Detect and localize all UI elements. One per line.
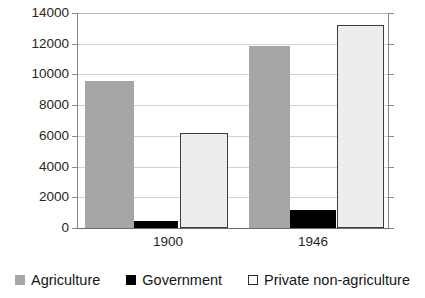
y-tick-right-14000 [389,13,394,14]
black-square-swatch-icon [126,275,136,285]
y-tick-right-0 [389,228,394,229]
gray-square-swatch-icon [15,275,25,285]
y-tick-left-14000 [72,13,77,14]
chart-legend: Agriculture Government Private non-agric… [0,268,425,292]
y-axis-label-14000: 14000 [9,6,69,20]
y-tick-right-6000 [389,136,394,137]
y-tick-left-4000 [72,167,77,168]
legend-label-private-non-agriculture: Private non-agriculture [264,272,410,288]
y-tick-left-2000 [72,197,77,198]
y-tick-right-8000 [389,105,394,106]
y-tick-right-12000 [389,44,394,45]
bars-layer [77,13,389,228]
y-axis-label-2000: 2000 [9,190,69,204]
x-axis-label-1946: 1946 [283,234,343,249]
y-tick-left-8000 [72,105,77,106]
white-square-swatch-icon [248,275,258,285]
legend-label-government: Government [142,272,222,288]
y-axis-label-6000: 6000 [9,129,69,143]
y-tick-left-10000 [72,74,77,75]
bar-private-non-agriculture-1900 [180,133,228,228]
y-tick-left-12000 [72,44,77,45]
x-axis-line [77,228,389,229]
y-axis-label-0: 0 [9,221,69,235]
y-tick-right-10000 [389,74,394,75]
legend-item-private-non-agriculture: Private non-agriculture [248,272,410,288]
legend-item-government: Government [126,272,222,288]
bar-private-non-agriculture-1946 [337,25,384,228]
y-axis-label-12000: 12000 [9,37,69,51]
y-tick-right-4000 [389,167,394,168]
y-tick-left-6000 [72,136,77,137]
bar-government-1900 [134,221,178,228]
legend-label-agriculture: Agriculture [31,272,100,288]
y-axis-label-10000: 10000 [9,67,69,81]
y-tick-right-2000 [389,197,394,198]
bar-government-1946 [290,210,336,228]
y-tick-left-0 [72,228,77,229]
legend-item-agriculture: Agriculture [15,272,100,288]
bar-agriculture-1900 [85,81,134,228]
x-axis-label-1900: 1900 [138,234,198,249]
y-axis-label-4000: 4000 [9,160,69,174]
grouped-bar-chart: 14000 12000 10000 8000 6000 4000 2000 0 [0,0,425,298]
bar-agriculture-1946 [249,46,290,228]
y-axis-label-8000: 8000 [9,98,69,112]
